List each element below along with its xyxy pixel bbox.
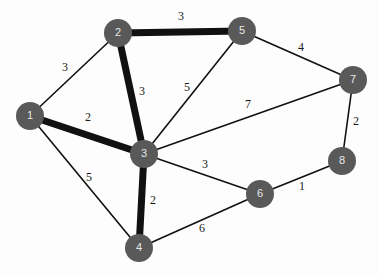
graph-node-2[interactable]: 2 [104,19,132,47]
graph-node-label-4: 4 [136,241,142,253]
graph-edge-1-2 [30,33,118,116]
edge-weight-7-8: 2 [353,114,359,128]
graph-node-label-8: 8 [339,154,345,166]
graph-node-label-6: 6 [257,187,263,199]
graph-node-1[interactable]: 1 [16,102,44,130]
edge-weight-3-7: 7 [245,97,251,111]
graph-edge-3-7 [144,80,353,154]
edge-weight-3-5: 5 [184,80,190,94]
graph-node-label-1: 1 [27,109,33,121]
edge-weight-5-7: 4 [298,40,304,54]
edges-layer [30,31,353,248]
graph-edge-3-4 [139,154,144,248]
edge-weights-layer: 3253325376412 [62,9,359,235]
graph-node-3[interactable]: 3 [130,140,158,168]
edge-weight-6-8: 1 [299,179,305,193]
graph-edge-2-5 [118,31,242,33]
graph-node-label-3: 3 [141,147,147,159]
edge-weight-3-6: 3 [202,157,208,171]
graph-canvas: 3253325376412 12345678 [0,0,378,275]
edge-weight-2-3: 3 [139,84,145,98]
graph-node-6[interactable]: 6 [246,180,274,208]
graph-edge-5-7 [242,31,353,80]
edge-weight-3-4: 2 [150,193,156,207]
edge-weight-4-6: 6 [199,221,205,235]
graph-node-8[interactable]: 8 [328,147,356,175]
graph-node-label-7: 7 [350,73,356,85]
graph-node-label-5: 5 [239,24,245,36]
graph-node-4[interactable]: 4 [125,234,153,262]
edge-weight-1-4: 5 [86,170,92,184]
graph-node-5[interactable]: 5 [228,17,256,45]
graph-node-7[interactable]: 7 [339,66,367,94]
graph-diagram: 3253325376412 12345678 [0,0,378,275]
edge-weight-1-3: 2 [85,110,91,124]
graph-edge-3-5 [144,31,242,154]
graph-node-label-2: 2 [115,26,121,38]
edge-weight-1-2: 3 [62,60,68,74]
edge-weight-2-5: 3 [178,9,184,23]
